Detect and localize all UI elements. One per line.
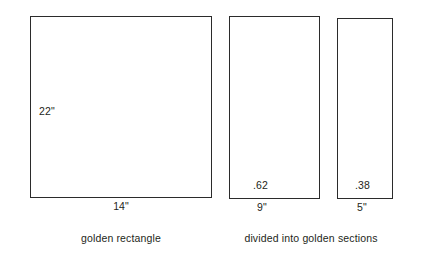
golden-section-minor-ratio-label: .38 [355,180,370,192]
golden-sections-caption: divided into golden sections [244,232,377,245]
golden-rectangle-shape [30,16,212,198]
golden-section-minor-width-label: 5" [357,202,367,214]
golden-section-major-width-label: 9" [257,202,267,214]
golden-rectangle-width-label: 14" [113,201,129,213]
golden-section-minor-shape [337,18,393,199]
diagram-canvas: 22" 14" golden rectangle .62 .38 9" 5" d… [0,0,421,254]
golden-rectangle-height-label: 22" [39,106,55,118]
golden-rectangle-caption: golden rectangle [81,232,161,245]
golden-section-major-ratio-label: .62 [253,180,268,192]
golden-section-major-shape [229,16,320,199]
